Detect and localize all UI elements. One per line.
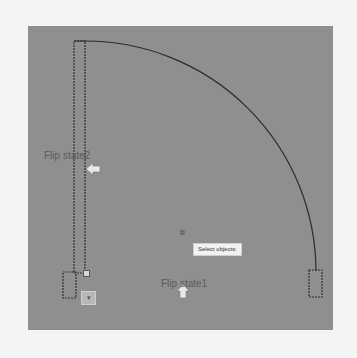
flip-state2-label: Flip state2 — [44, 150, 90, 161]
right-jamb[interactable] — [309, 270, 322, 297]
lookup-grip[interactable]: ▾ — [81, 291, 96, 305]
arrow-left-icon[interactable] — [86, 163, 100, 175]
flip-state1-label: Flip state1 — [161, 278, 207, 289]
base-point-grip[interactable] — [83, 270, 90, 277]
left-jamb[interactable] — [63, 272, 76, 298]
crosshair-icon — [181, 231, 184, 234]
door-block-drawing[interactable] — [0, 0, 357, 358]
door-swing-arc[interactable] — [85, 41, 316, 271]
command-tooltip: Select objects: — [193, 243, 242, 256]
